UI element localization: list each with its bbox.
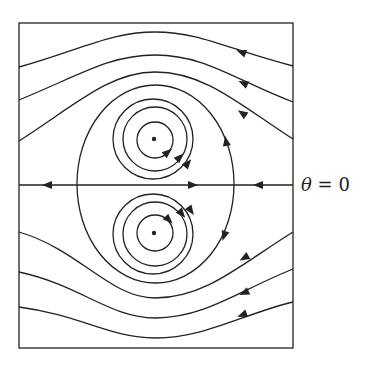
- lower-vortex-arrow-inner: [163, 214, 176, 227]
- theta-zero-label: θ = 0: [301, 174, 350, 195]
- upper-streamline-2-arrow: [237, 77, 249, 88]
- upper-vortex-center: [152, 137, 156, 141]
- separatrix-arrow-up: [221, 135, 231, 146]
- lower-vortex-arrow-outer: [185, 205, 197, 218]
- upper-streamline-1-arrow: [235, 47, 247, 58]
- axis-arrow-left-2: [253, 181, 263, 189]
- upper-streamline-2: [19, 55, 293, 102]
- lower-vortex-center: [152, 231, 156, 235]
- lower-streamline-2: [19, 269, 293, 318]
- equals-sign: =: [318, 174, 333, 195]
- axis-arrow-right: [188, 181, 198, 189]
- axis-arrow-left-1: [42, 181, 52, 189]
- lower-streamline-1-arrow: [238, 252, 251, 264]
- separatrix-oval: [77, 85, 234, 283]
- lower-streamline-3: [19, 302, 293, 338]
- zero-value: 0: [338, 174, 349, 195]
- theta-symbol: θ: [301, 174, 312, 195]
- lower-streamline-3-arrow: [236, 310, 248, 321]
- upper-streamline-3-arrow: [236, 107, 249, 119]
- upper-streamline-1: [19, 32, 293, 67]
